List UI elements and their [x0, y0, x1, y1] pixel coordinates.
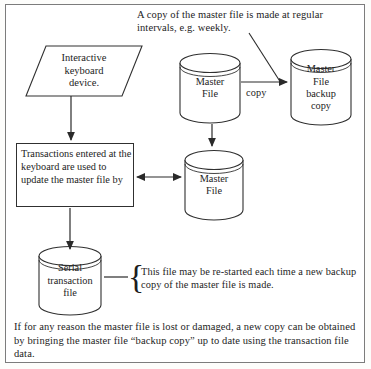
- master-file-middle-shape: [183, 149, 245, 221]
- master-file-backup-shape: [289, 48, 353, 128]
- input-device-line-1: Interactive: [62, 52, 107, 65]
- bottom-caption-text: If for any reason the master file is los…: [14, 320, 358, 361]
- figure-canvas: A copy of the master file is made at reg…: [0, 0, 371, 369]
- master-file-top-shape: [178, 52, 242, 124]
- process-box-label: Transactions entered at the keyboard are…: [21, 147, 133, 186]
- top-caption-text: A copy of the master file is made at reg…: [137, 8, 365, 34]
- input-device-line-2: keyboard: [64, 65, 103, 78]
- input-device-line-3: device.: [69, 77, 99, 90]
- curly-brace-icon: {: [128, 262, 142, 292]
- serial-transaction-file-shape: [37, 245, 103, 317]
- input-device-label: Interactive keyboard device.: [24, 48, 144, 94]
- brace-note-text: This file may be re-started each time a …: [141, 265, 363, 291]
- copy-edge-label: copy: [246, 86, 266, 99]
